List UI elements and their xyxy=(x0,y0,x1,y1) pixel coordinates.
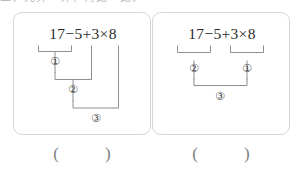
problem-1-answer-row: ( ) xyxy=(13,139,151,169)
problem-1-step-1-marker: ① xyxy=(50,56,60,67)
cut-off-heading: 二、先算一算，再比一比。 xyxy=(0,0,306,9)
problem-2-step-3-marker: ③ xyxy=(215,91,225,102)
problem-2-close-paren: ) xyxy=(244,144,250,164)
cut-off-heading-text: 二、先算一算，再比一比。 xyxy=(0,0,144,2)
problem-2-order-diagram: ② ① ③ xyxy=(153,13,291,136)
problem-1: 17−5+3×8 xyxy=(13,9,153,175)
problem-1-order-diagram: ① ② ③ xyxy=(14,13,152,136)
problem-1-card: 17−5+3×8 xyxy=(13,12,151,135)
problem-2-answer-row: ( ) xyxy=(152,139,290,169)
problem-1-step-2-marker: ② xyxy=(68,84,78,95)
problem-2-step-1-marker: ① xyxy=(242,63,252,74)
problem-2: 17−5+3×8 ② ① xyxy=(152,9,292,175)
worksheet: 17−5+3×8 xyxy=(0,9,306,175)
problem-1-close-paren: ) xyxy=(105,144,111,164)
problem-2-step-2-marker: ② xyxy=(189,63,199,74)
problem-1-answer-input[interactable] xyxy=(59,145,105,163)
problem-2-answer-input[interactable] xyxy=(198,145,244,163)
problem-1-step-3-marker: ③ xyxy=(91,113,101,124)
problem-2-card: 17−5+3×8 ② ① xyxy=(152,12,290,135)
